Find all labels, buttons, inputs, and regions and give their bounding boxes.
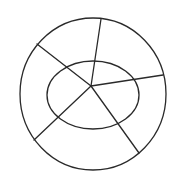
spoke-bottom-right xyxy=(91,86,139,153)
spoke-bottom-left xyxy=(34,86,91,140)
spoke-upper-left xyxy=(37,44,91,86)
spoke-right xyxy=(91,75,163,86)
outer-circle xyxy=(20,18,166,170)
spoke-top xyxy=(91,19,101,86)
concentric-circle-diagram xyxy=(0,0,179,183)
